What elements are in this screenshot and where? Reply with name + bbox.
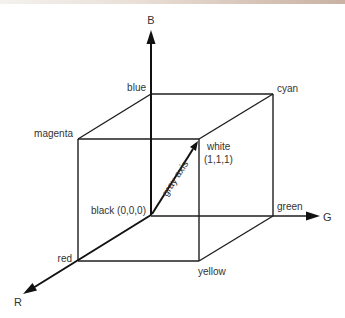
vertex-label-white: white xyxy=(206,141,231,152)
r-axis-arrow-icon xyxy=(23,283,37,294)
vertex-label-black: black (0,0,0) xyxy=(91,205,146,216)
b-axis-arrow-icon xyxy=(147,30,156,44)
g-axis-label: G xyxy=(323,211,332,223)
gray-axis-label: gray axis xyxy=(159,159,190,199)
vertex-label-magenta: magenta xyxy=(34,128,73,139)
vertex-label-yellow: yellow xyxy=(198,266,227,277)
labels: B G R blue cyan magenta white (1,1,1) bl… xyxy=(14,14,332,308)
edge-blue-magenta xyxy=(78,94,151,139)
b-axis-label: B xyxy=(147,14,154,26)
vertex-label-red: red xyxy=(58,253,72,264)
r-axis-label: R xyxy=(14,296,22,308)
edge-green-yellow xyxy=(199,216,273,261)
gray-axis-arrow-icon xyxy=(190,141,198,151)
g-axis-arrow-icon xyxy=(306,212,320,221)
vertex-label-green: green xyxy=(277,201,303,212)
rgb-cube-diagram: B G R blue cyan magenta white (1,1,1) bl… xyxy=(0,0,345,318)
r-axis-line xyxy=(33,215,151,288)
edge-cyan-white xyxy=(199,94,273,139)
vertex-label-cyan: cyan xyxy=(277,83,298,94)
vertex-label-white-coord: (1,1,1) xyxy=(204,154,233,165)
vertex-label-blue: blue xyxy=(127,82,146,93)
